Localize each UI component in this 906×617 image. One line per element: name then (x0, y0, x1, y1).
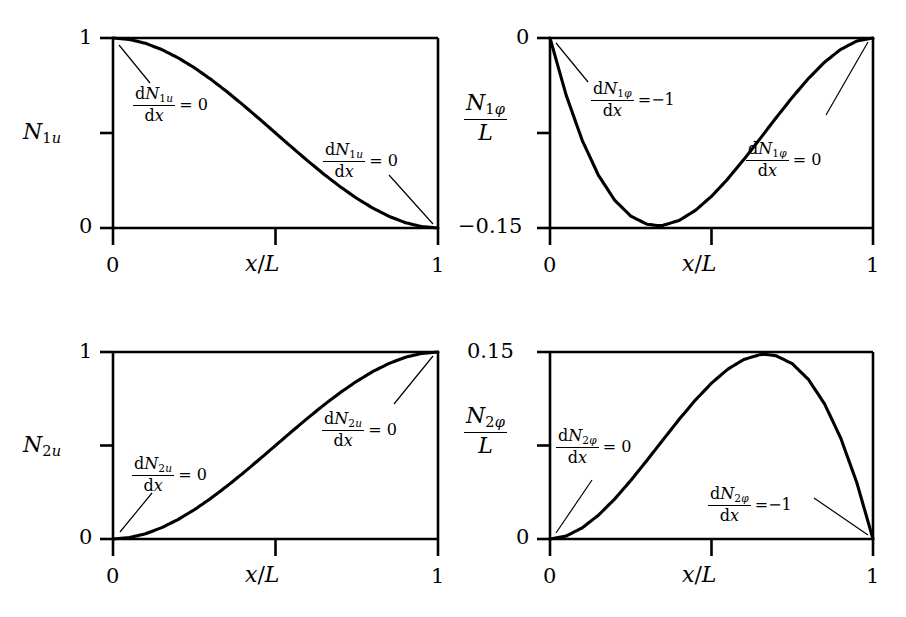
leader-line-right (389, 175, 433, 224)
y-tick-label-top: 1 (79, 341, 92, 362)
axis-frame (550, 38, 873, 228)
y-axis-label-n2phi: N2φ L (464, 404, 507, 457)
y-tick-label-bottom: 0 (79, 527, 92, 548)
fraction-derivative: dN2φ dx (708, 485, 751, 525)
x-tick-label-right: 1 (431, 566, 444, 587)
leader-line-left (119, 45, 150, 83)
y-tick-label-top: 0 (516, 27, 529, 48)
y-axis-label-n1u: N1u (23, 121, 61, 146)
x-tick-label-left: 0 (106, 255, 119, 276)
y-axis-label-n1phi: N1φ L (464, 91, 507, 144)
annotation-derivative-left: dN1u dx = 0 (133, 85, 208, 125)
annotation-value: = 0 (369, 153, 398, 169)
shape-function-figure: N1u 1 0 0 1 x/L dN1u dx = 0 dN1u (0, 0, 906, 617)
annotation-value: =−1 (638, 92, 675, 108)
annotation-value: =−1 (755, 497, 792, 513)
y-axis-label-n2u: N2u (23, 434, 61, 459)
leader-line-right (814, 498, 868, 535)
x-tick-label-left: 0 (543, 566, 556, 587)
annotation-value: = 0 (179, 97, 208, 113)
y-tick-label-top: 1 (79, 27, 92, 48)
x-axis-ticks (113, 539, 438, 556)
fraction-y-label: N2φ L (464, 404, 507, 457)
panel-n2u-plot (0, 310, 453, 617)
panel-n2phi-plot (446, 310, 906, 617)
leader-line-right (826, 42, 868, 115)
x-tick-label-left: 0 (543, 255, 556, 276)
fraction-y-label: N1φ L (464, 91, 507, 144)
fraction-derivative: dN2u dx (132, 455, 174, 495)
x-tick-label-left: 0 (106, 566, 119, 587)
leader-line-right (394, 356, 433, 404)
x-axis-label: x/L (245, 564, 279, 586)
fraction-derivative: dN1φ dx (746, 140, 789, 180)
annotation-derivative-right: dN1u dx = 0 (323, 141, 398, 181)
x-axis-label: x/L (245, 253, 279, 275)
x-tick-label-right: 1 (866, 566, 879, 587)
y-axis-ticks (100, 352, 113, 539)
annotation-value: = 0 (793, 152, 822, 168)
x-axis-ticks (550, 539, 873, 556)
annotation-value: = 0 (178, 467, 207, 483)
x-axis-label: x/L (682, 253, 716, 275)
annotation-derivative-left: dN2u dx = 0 (132, 455, 207, 495)
annotation-derivative-left: dN1φ dx =−1 (591, 80, 675, 120)
x-axis-ticks (550, 228, 873, 245)
panel-n2phi: N2φ L 0.15 0 0 1 x/L dN2φ dx = 0 dN2φ (446, 310, 906, 617)
y-tick-label-bottom: −0.15 (458, 216, 522, 237)
panel-n1u: N1u 1 0 0 1 x/L dN1u dx = 0 dN1u (0, 0, 453, 308)
leader-line-left (120, 493, 152, 532)
x-tick-label-right: 1 (866, 255, 879, 276)
annotation-derivative-right: dN2φ dx =−1 (708, 485, 792, 525)
annotation-derivative-right: dN1φ dx = 0 (746, 140, 821, 180)
y-axis-ticks (100, 38, 113, 228)
fraction-derivative: dN2u dx (322, 410, 364, 450)
panel-n1phi-plot (446, 0, 906, 308)
fraction-derivative: dN1u dx (323, 141, 365, 181)
fraction-derivative: dN1φ dx (591, 80, 634, 120)
fraction-derivative: dN2φ dx (556, 427, 599, 467)
x-axis-label: x/L (682, 564, 716, 586)
annotation-value: = 0 (368, 422, 397, 438)
annotation-value: = 0 (603, 439, 632, 455)
panel-n1phi: N1φ L 0 −0.15 0 1 x/L dN1φ dx =−1 dN1φ (446, 0, 906, 308)
annotation-derivative-right: dN2u dx = 0 (322, 410, 397, 450)
curve-n1u-path (113, 38, 438, 228)
y-tick-label-bottom: 0 (79, 216, 92, 237)
curve-n1phi-path (550, 38, 873, 226)
x-tick-label-right: 1 (431, 255, 444, 276)
y-tick-label-bottom: 0 (516, 527, 529, 548)
panel-n2u: N2u 1 0 0 1 x/L dN2u dx = 0 dN2u dx (0, 310, 453, 617)
y-axis-ticks (537, 38, 550, 228)
y-tick-label-top: 0.15 (467, 341, 514, 362)
annotation-derivative-left: dN2φ dx = 0 (556, 427, 631, 467)
x-axis-ticks (113, 228, 438, 245)
fraction-derivative: dN1u dx (133, 85, 175, 125)
y-axis-ticks (537, 352, 550, 539)
